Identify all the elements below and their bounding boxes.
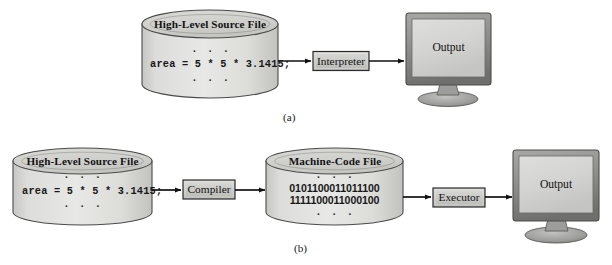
dots-bottom-machine-file: · · · [310,209,360,220]
screen-label-output-b: Output [519,179,593,191]
monitor-output-b [513,150,599,243]
screen-label-output-a: Output [412,42,485,54]
cylinder-title-source-file-a: High-Level Source File [151,19,269,30]
diagram-canvas [0,0,612,265]
cylinder-title-source-file-b: High-Level Source File [23,156,142,167]
box-label-executor[interactable]: Executor [433,192,485,203]
dots-top-source-a: · · · [186,46,236,57]
dots-bottom-source-a: · · · [186,75,236,86]
binary-line-1: 0101100011011100 [271,183,398,194]
dots-top-machine-file: · · · [310,172,360,183]
box-label-interpreter[interactable]: Interpreter [313,56,369,67]
dots-top-source-b: · · · [58,172,108,183]
box-label-compiler[interactable]: Compiler [183,184,235,195]
code-line-source-b: area = 5 * 5 * 3.1415; [22,186,144,196]
cylinder-title-machine-code-file: Machine-Code File [276,156,394,167]
dots-bottom-source-b: · · · [58,201,108,212]
caption-b: (b) [294,243,307,254]
caption-a: (a) [283,112,295,123]
code-line-source-a: area = 5 * 5 * 3.1415; [150,59,272,69]
monitor-output-a [406,13,491,107]
figure-root: High-Level Source File · · · area = 5 * … [0,0,612,265]
binary-line-2: 1111100011000100 [271,195,398,206]
